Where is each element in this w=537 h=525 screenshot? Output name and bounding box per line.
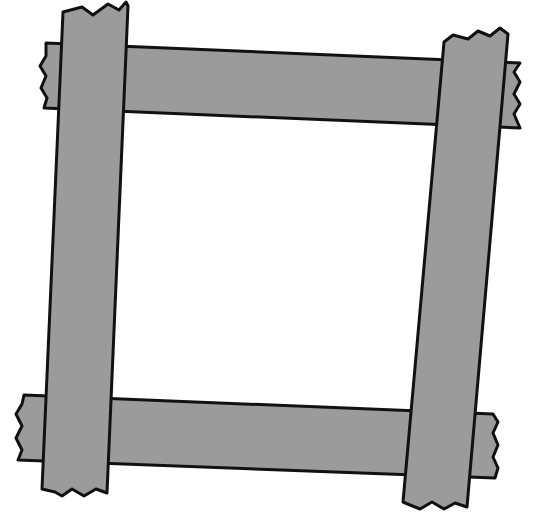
plank-frame-illustration [0, 0, 537, 525]
plank-frame-svg [0, 0, 537, 525]
